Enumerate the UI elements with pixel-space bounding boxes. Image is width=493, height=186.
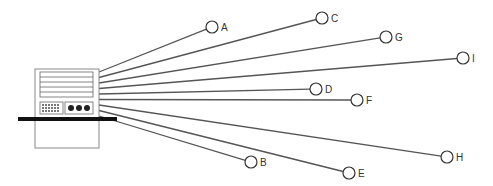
node-label: G bbox=[395, 32, 403, 43]
connection-lines bbox=[99, 20, 457, 172]
node-circle-icon bbox=[351, 94, 363, 106]
node-circle-icon bbox=[245, 156, 257, 168]
connection-line-h bbox=[99, 105, 441, 156]
node-a: A bbox=[206, 21, 228, 33]
node-g: G bbox=[380, 31, 403, 43]
node-label: F bbox=[366, 95, 372, 106]
node-circle-icon bbox=[343, 167, 355, 179]
node-circle-icon bbox=[206, 21, 218, 33]
computer-icon bbox=[18, 69, 117, 148]
connection-line-f bbox=[99, 100, 351, 101]
node-d: D bbox=[310, 83, 332, 95]
node-label: A bbox=[221, 22, 228, 33]
node-label: E bbox=[358, 168, 365, 179]
node-b: B bbox=[245, 156, 267, 168]
node-e: E bbox=[343, 167, 365, 179]
node-label: H bbox=[456, 152, 463, 163]
node-circle-icon bbox=[441, 151, 453, 163]
connection-line-e bbox=[99, 111, 343, 172]
node-label: C bbox=[331, 13, 338, 24]
node-f: F bbox=[351, 94, 372, 106]
node-label: I bbox=[472, 53, 475, 64]
connection-line-b bbox=[99, 116, 245, 160]
network-diagram: ABCDEFGHI bbox=[0, 0, 493, 186]
node-circle-icon bbox=[457, 52, 469, 64]
connection-line-d bbox=[99, 89, 310, 94]
node-h: H bbox=[441, 151, 463, 163]
node-c: C bbox=[316, 12, 338, 24]
connection-line-a bbox=[99, 29, 206, 72]
node-i: I bbox=[457, 52, 475, 64]
node-label: B bbox=[260, 157, 267, 168]
nodes: ABCDEFGHI bbox=[206, 12, 475, 179]
node-circle-icon bbox=[380, 31, 392, 43]
node-label: D bbox=[325, 84, 332, 95]
node-circle-icon bbox=[310, 83, 322, 95]
node-circle-icon bbox=[316, 12, 328, 24]
